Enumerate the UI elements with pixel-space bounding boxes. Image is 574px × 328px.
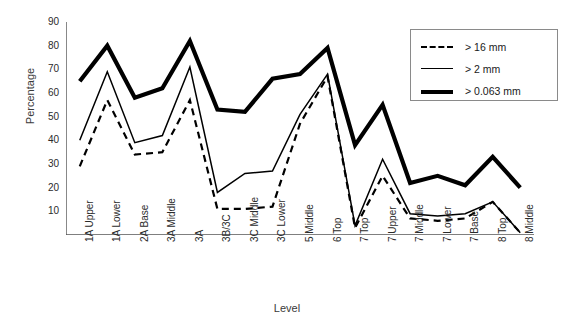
legend-swatch-icon	[421, 90, 453, 94]
y-tick-label: 90	[29, 17, 59, 27]
y-tick-label: 30	[29, 159, 59, 169]
x-tick-label: 7 Base	[469, 211, 480, 242]
legend-item: > 16 mm	[421, 39, 551, 55]
x-tick-label: 7 Lower	[442, 206, 453, 242]
legend: > 16 mm> 2 mm> 0.063 mm	[410, 29, 558, 101]
y-tick-label: 40	[29, 135, 59, 145]
x-tick-label: 1A Lower	[111, 200, 122, 242]
legend-item: > 2 mm	[421, 61, 551, 77]
y-tick-label: 70	[29, 64, 59, 74]
legend-label: > 0.063 mm	[465, 83, 521, 99]
x-tick-label: 7 Middle	[414, 204, 425, 242]
x-tick-label: 6 Top	[332, 218, 343, 242]
x-tick-label: 8 Top	[497, 218, 508, 242]
legend-swatch-icon	[421, 68, 453, 69]
y-tick-label: 80	[29, 41, 59, 51]
y-tick-label: 10	[29, 206, 59, 216]
x-tick-label: 3C Lower	[276, 199, 287, 242]
chart-figure: Percentage Level 102030405060708090 1A U…	[0, 0, 574, 328]
x-tick-label: 3A Middle	[166, 198, 177, 242]
x-tick-label: 3B/3C	[221, 214, 232, 242]
y-tick-label: 60	[29, 88, 59, 98]
x-axis-title: Level	[0, 302, 574, 314]
x-tick-label: 8 Middle	[524, 204, 535, 242]
x-tick-label: 7 Upper	[387, 206, 398, 242]
x-tick-label: 3A	[194, 230, 205, 242]
legend-swatch-icon	[421, 46, 453, 48]
legend-label: > 2 mm	[465, 61, 500, 77]
x-tick-label: 7 Top	[359, 218, 370, 242]
x-tick-label: 5 Middle	[304, 204, 315, 242]
x-tick-label: 3C Middle	[249, 197, 260, 242]
x-tick-label: 2A Base	[139, 205, 150, 242]
x-tick-label: 1A Upper	[84, 200, 95, 242]
legend-item: > 0.063 mm	[421, 83, 551, 99]
legend-label: > 16 mm	[465, 39, 506, 55]
y-tick-label: 50	[29, 112, 59, 122]
y-tick-label: 20	[29, 183, 59, 193]
